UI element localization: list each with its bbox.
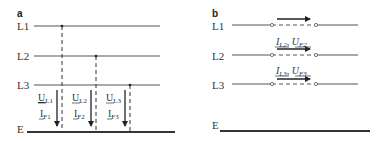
panel-a: a L1 L2 L3 E UL1 IF1 UL2 IF2 UL3 IF3	[17, 8, 175, 135]
line-label-l2: L2	[17, 50, 29, 62]
panel-a-label: a	[17, 8, 23, 19]
line-label-e: E	[212, 119, 219, 131]
fault-node-l1	[61, 25, 64, 28]
line-label-l1: L1	[17, 20, 29, 32]
line-label-l2: L2	[212, 50, 224, 62]
line-label-l1: L1	[212, 20, 224, 32]
panel-b-label: b	[212, 8, 218, 19]
line-label-e: E	[17, 123, 24, 135]
line-label-l3: L3	[17, 79, 30, 91]
fault-diagram: a L1 L2 L3 E UL1 IF1 UL2 IF2 UL3 IF3	[0, 0, 380, 141]
fault-node-l3	[129, 84, 132, 87]
fault-node-l2	[95, 55, 98, 58]
line-label-l3: L3	[212, 79, 225, 91]
panel-b: b L1 L2 L3 E IL2, UF2 IL3, UF3	[212, 8, 370, 131]
